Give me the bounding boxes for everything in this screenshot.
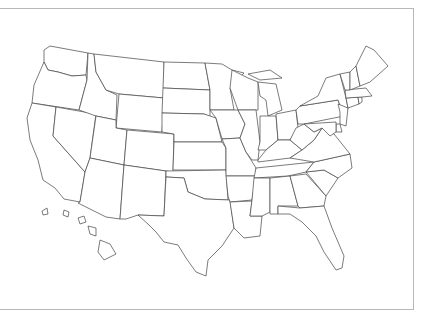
state-ar	[226, 176, 256, 202]
state-hi-3	[78, 216, 86, 224]
state-de	[336, 124, 342, 132]
state-ct	[346, 97, 359, 108]
state-co	[124, 130, 174, 172]
state-nm	[120, 165, 166, 219]
state-ri	[358, 97, 362, 104]
state-nd	[163, 62, 210, 90]
state-fl	[278, 206, 344, 270]
state-hi-1	[42, 208, 48, 215]
state-pa	[296, 100, 344, 124]
state-hi-4	[88, 226, 96, 236]
us-state-map	[0, 0, 435, 324]
state-sd	[162, 88, 210, 117]
state-ks	[173, 142, 226, 170]
state-wy	[116, 94, 164, 132]
state-hi-5	[98, 240, 116, 260]
state-hi-2	[63, 210, 69, 217]
state-me	[356, 46, 388, 86]
